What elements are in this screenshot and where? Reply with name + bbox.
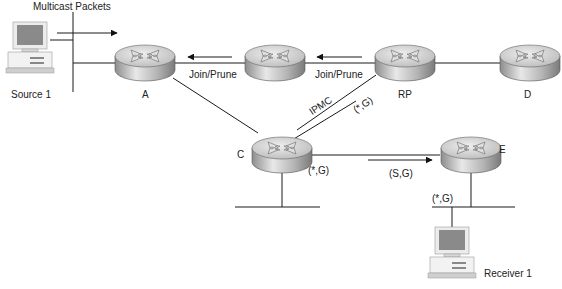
source-label: Source 1: [11, 90, 51, 100]
router-b-icon: [245, 45, 305, 81]
router-c-label: C: [237, 150, 244, 160]
router-a-label: A: [142, 90, 149, 100]
router-e-icon: [441, 137, 501, 173]
router-rp-label: RP: [398, 90, 412, 100]
router-d-icon: [500, 45, 560, 81]
join-prune-label-1: Join/Prune: [189, 70, 237, 80]
receiver-computer-icon: [428, 227, 476, 278]
router-rp-icon: [375, 45, 435, 81]
source-computer-icon: [6, 22, 54, 73]
s-g-label: (S,G): [389, 169, 413, 179]
router-c-icon: [252, 137, 312, 173]
router-a-icon: [115, 45, 175, 81]
star-g-c-label: (*,G): [308, 166, 329, 176]
router-e-label: E: [499, 145, 506, 155]
network-diagram: [0, 0, 562, 289]
multicast-packets-label: Multicast Packets: [33, 2, 111, 12]
join-prune-label-2: Join/Prune: [315, 70, 363, 80]
router-d-label: D: [524, 90, 531, 100]
receiver-label: Receiver 1: [484, 269, 532, 279]
star-g-e-label: (*,G): [432, 194, 453, 204]
